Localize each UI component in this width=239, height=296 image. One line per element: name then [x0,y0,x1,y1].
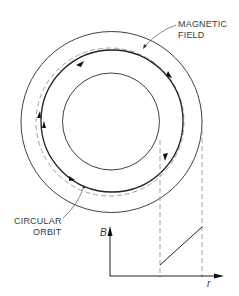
circular-orbit-leader [63,186,84,218]
arrow-icon [37,111,41,118]
leader-dot-icon [83,186,86,189]
orbit-arrows [37,61,172,181]
arrow-icon [69,176,75,181]
arrow-icon [76,61,84,67]
inner-boundary [63,73,160,170]
arrow-icon [42,121,46,128]
magnetic-field-label-2: FIELD [178,30,205,40]
magnetic-field-leader [145,25,176,46]
x-axis-label: r [207,278,211,289]
cyclotron-field-diagram: MAGNETIC FIELD CIRCULAR ORBIT B r [0,0,239,296]
field-profile-line [160,227,202,265]
x-axis-arrow-icon [214,274,224,279]
y-axis-arrow-icon [108,226,113,236]
outer-field-boundary [21,32,202,213]
y-axis-label: B [100,227,107,238]
circular-orbit-label-2: ORBIT [33,227,62,237]
magnetic-field-label-1: MAGNETIC [178,19,227,29]
arrow-icon [163,153,168,161]
circular-orbit-label-1: CIRCULAR [14,216,62,226]
